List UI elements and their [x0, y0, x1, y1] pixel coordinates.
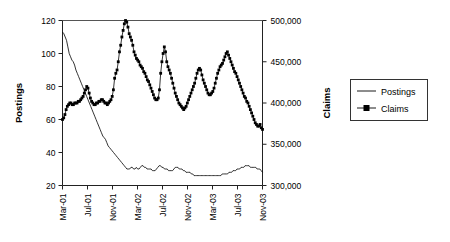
x-axis-tick-label: Mar-02 [133, 193, 143, 220]
right-axis-tick-label: 400,000 [271, 98, 302, 108]
claims-data-point [192, 85, 195, 88]
claims-data-point [173, 87, 176, 90]
claims-data-point [194, 77, 197, 80]
claims-data-point [116, 69, 119, 72]
claims-data-point [118, 50, 121, 53]
claims-data-point [158, 88, 161, 91]
claims-data-point [62, 116, 65, 119]
legend-label-postings: Postings [381, 87, 416, 97]
claims-data-point [240, 88, 243, 91]
claims-data-point [165, 60, 168, 63]
claims-data-point [261, 128, 264, 131]
claims-data-point [234, 72, 237, 75]
claims-data-point [125, 21, 128, 24]
claims-data-point [237, 79, 240, 82]
claims-data-point [247, 102, 250, 105]
right-axis-tick-label: 450,000 [271, 57, 302, 67]
claims-data-point [204, 85, 207, 88]
claims-data-point [169, 72, 172, 75]
claims-data-point [113, 77, 116, 80]
x-axis-tick-label: Nov-02 [183, 193, 193, 221]
claims-data-point [145, 75, 148, 78]
claims-data-point [119, 44, 122, 47]
claims-data-point [83, 92, 86, 95]
claims-data-point [167, 65, 170, 68]
claims-data-point [123, 22, 126, 25]
left-axis-tick-label: 80 [46, 82, 56, 92]
claims-data-point [221, 62, 224, 65]
claims-data-point [150, 87, 153, 90]
claims-data-point [236, 75, 239, 78]
claims-data-point [110, 98, 113, 101]
claims-data-point [163, 46, 166, 49]
claims-data-point [193, 82, 196, 85]
claims-data-point [159, 72, 162, 75]
claims-data-point [238, 82, 241, 85]
claims-data-point [185, 105, 188, 108]
dual-axis-line-chart: 20406080100120 Postings 300,000350,00040… [0, 0, 450, 242]
claims-data-point [171, 82, 174, 85]
claims-data-point [239, 85, 242, 88]
left-axis-tick-label: 40 [46, 148, 56, 158]
claims-data-point [147, 80, 150, 83]
claims-data-point [134, 54, 137, 57]
chart-legend: Postings Claims [351, 80, 428, 121]
claims-data-point [242, 92, 245, 95]
claims-data-point [250, 112, 253, 115]
claims-data-point [224, 55, 227, 58]
claims-data-point [137, 60, 140, 63]
claims-data-point [253, 118, 256, 121]
claims-data-point [87, 87, 90, 90]
claims-data-point [64, 113, 67, 116]
claims-data-point [199, 69, 202, 72]
left-axis-tick-label: 60 [46, 115, 56, 125]
x-axis-tick-label: Mar-01 [58, 193, 68, 220]
claims-data-point [216, 72, 219, 75]
claims-data-point [127, 26, 130, 29]
left-axis-tick-label: 120 [41, 16, 55, 26]
claims-data-point [176, 98, 179, 101]
right-axis-tick-label: 500,000 [271, 16, 302, 26]
claims-data-point [187, 98, 190, 101]
claims-data-point [200, 74, 203, 77]
claims-data-point [231, 64, 234, 67]
claims-data-point [162, 52, 165, 55]
claims-data-point [82, 95, 85, 98]
legend-swatch-claims-marker [364, 105, 370, 111]
claims-data-point [259, 123, 262, 126]
claims-data-point [222, 59, 225, 62]
claims-data-point [141, 67, 144, 70]
right-axis-tick-label: 300,000 [271, 181, 302, 191]
claims-data-point [168, 69, 171, 72]
claims-data-point [205, 88, 208, 91]
claims-data-point [112, 88, 115, 91]
claims-data-point [128, 32, 131, 35]
chart-figure: 20406080100120 Postings 300,000350,00040… [0, 0, 450, 242]
claims-data-point [215, 77, 218, 80]
claims-data-point [129, 36, 132, 39]
claims-data-point [202, 79, 205, 82]
claims-data-point [190, 92, 193, 95]
claims-data-point [164, 50, 167, 53]
claims-data-point [157, 97, 160, 100]
claims-data-point [248, 105, 251, 108]
x-axis-tick-label: Jul-02 [158, 193, 168, 216]
right-axis-tick-label: 350,000 [271, 139, 302, 149]
claims-data-point [203, 82, 206, 85]
claims-data-point [249, 108, 252, 111]
x-axis-tick-label: Nov-03 [258, 193, 268, 221]
claims-data-point [213, 87, 216, 90]
x-axis-tick-label: Mar-03 [208, 193, 218, 220]
claims-data-point [232, 67, 235, 70]
claims-data-point [188, 95, 191, 98]
claims-data-point [144, 72, 147, 75]
claims-data-point [174, 92, 177, 95]
claims-data-point [88, 92, 91, 95]
claims-data-point [251, 115, 254, 118]
x-axis-tick-label: Jul-01 [83, 193, 93, 216]
claims-data-point [148, 83, 151, 86]
claims-data-point [170, 77, 173, 80]
left-axis-title: Postings [13, 83, 24, 123]
legend-label-claims: Claims [381, 104, 409, 114]
claims-data-point [228, 57, 231, 60]
